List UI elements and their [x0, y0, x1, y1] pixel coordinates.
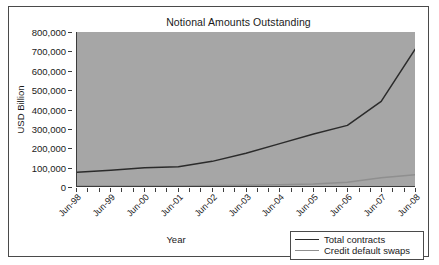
x-axis-tick-label: Jun-01: [158, 192, 185, 219]
series-line-total-contracts: [77, 49, 415, 172]
legend-swatch-total-contracts: [295, 239, 319, 240]
x-axis-tick-label: Jun-06: [328, 192, 355, 219]
y-axis-tick-label: 100,000: [32, 162, 66, 173]
x-axis-tick-mark: [359, 188, 360, 192]
x-axis-tick-label: Jun-07: [362, 192, 389, 219]
x-axis-tick-mark: [291, 188, 292, 192]
x-axis-tick-mark: [302, 188, 303, 192]
x-axis-tick-mark: [325, 188, 326, 192]
chart-figure: Notional Amounts Outstanding USD Billion…: [8, 6, 429, 257]
x-axis-tick-mark: [415, 188, 416, 192]
legend-item-credit-default-swaps: Credit default swaps: [295, 245, 419, 256]
y-axis-tick-mark: [68, 187, 72, 188]
y-axis-tick-mark: [68, 168, 72, 169]
x-axis-tick-label: Jun-05: [294, 192, 321, 219]
x-axis-tick-label: Jun-08: [396, 192, 423, 219]
y-axis-tick-label: 500,000: [32, 85, 66, 96]
legend-label-total-contracts: Total contracts: [324, 234, 385, 245]
x-axis-tick-mark: [121, 188, 122, 192]
legend-item-total-contracts: Total contracts: [295, 234, 419, 245]
y-axis-tick-mark: [68, 148, 72, 149]
x-axis-tick-mark: [223, 188, 224, 192]
x-axis-tick-mark: [257, 188, 258, 192]
chart-title: Notional Amounts Outstanding: [9, 16, 428, 28]
x-axis-tick-mark: [133, 188, 134, 192]
y-axis-tick-label: 300,000: [32, 123, 66, 134]
x-axis-tick-mark: [347, 188, 348, 192]
series-line-credit-default-swaps: [77, 175, 415, 186]
x-axis-tick-mark: [392, 188, 393, 192]
x-axis-tick-mark: [200, 188, 201, 192]
y-axis-tick-label: 700,000: [32, 46, 66, 57]
y-axis-tick-labels: 800,000700,000600,000500,000400,000300,0…: [9, 32, 72, 187]
y-axis-tick-label: 0: [61, 182, 66, 193]
legend-label-credit-default-swaps: Credit default swaps: [324, 245, 410, 256]
legend-swatch-credit-default-swaps: [295, 250, 319, 251]
x-axis-tick-label: Jun-00: [124, 192, 151, 219]
x-axis-tick-mark: [234, 188, 235, 192]
y-axis-tick-mark: [68, 129, 72, 130]
x-axis-tick-label: Jun-04: [260, 192, 287, 219]
x-axis-tick-mark: [189, 188, 190, 192]
x-axis-tick-mark: [76, 188, 77, 192]
x-axis-tick-mark: [87, 188, 88, 192]
x-axis-tick-mark: [178, 188, 179, 192]
x-axis-tick-mark: [246, 188, 247, 192]
x-axis-tick-label: Jun-98: [57, 192, 84, 219]
y-axis-tick-mark: [68, 110, 72, 111]
x-axis-tick-label: Jun-99: [90, 192, 117, 219]
y-axis-tick-mark: [68, 90, 72, 91]
x-axis-tick-mark: [336, 188, 337, 192]
x-axis-tick-mark: [144, 188, 145, 192]
x-axis-tick-mark: [279, 188, 280, 192]
x-axis-tick-mark: [370, 188, 371, 192]
x-axis-tick-mark: [313, 188, 314, 192]
y-axis-tick-label: 600,000: [32, 65, 66, 76]
plot-area: [76, 32, 415, 187]
y-axis-tick-label: 200,000: [32, 143, 66, 154]
x-axis-tick-mark: [404, 188, 405, 192]
x-axis-tick-mark: [110, 188, 111, 192]
x-axis-tick-mark: [99, 188, 100, 192]
chart-legend: Total contracts Credit default swaps: [290, 231, 424, 260]
x-axis-title: Year: [76, 234, 276, 245]
x-axis-tick-mark: [155, 188, 156, 192]
x-axis-tick-labels: Jun-98Jun-99Jun-00Jun-01Jun-02Jun-03Jun-…: [76, 188, 415, 230]
y-axis-tick-mark: [68, 71, 72, 72]
y-axis-tick-mark: [68, 32, 72, 33]
x-axis-tick-mark: [212, 188, 213, 192]
x-axis-tick-mark: [268, 188, 269, 192]
y-axis-tick-label: 800,000: [32, 27, 66, 38]
plot-series-svg: [77, 32, 415, 186]
x-axis-tick-label: Jun-02: [192, 192, 219, 219]
x-axis-tick-mark: [166, 188, 167, 192]
y-axis-tick-mark: [68, 51, 72, 52]
x-axis-tick-mark: [381, 188, 382, 192]
x-axis-tick-label: Jun-03: [226, 192, 253, 219]
y-axis-tick-label: 400,000: [32, 104, 66, 115]
